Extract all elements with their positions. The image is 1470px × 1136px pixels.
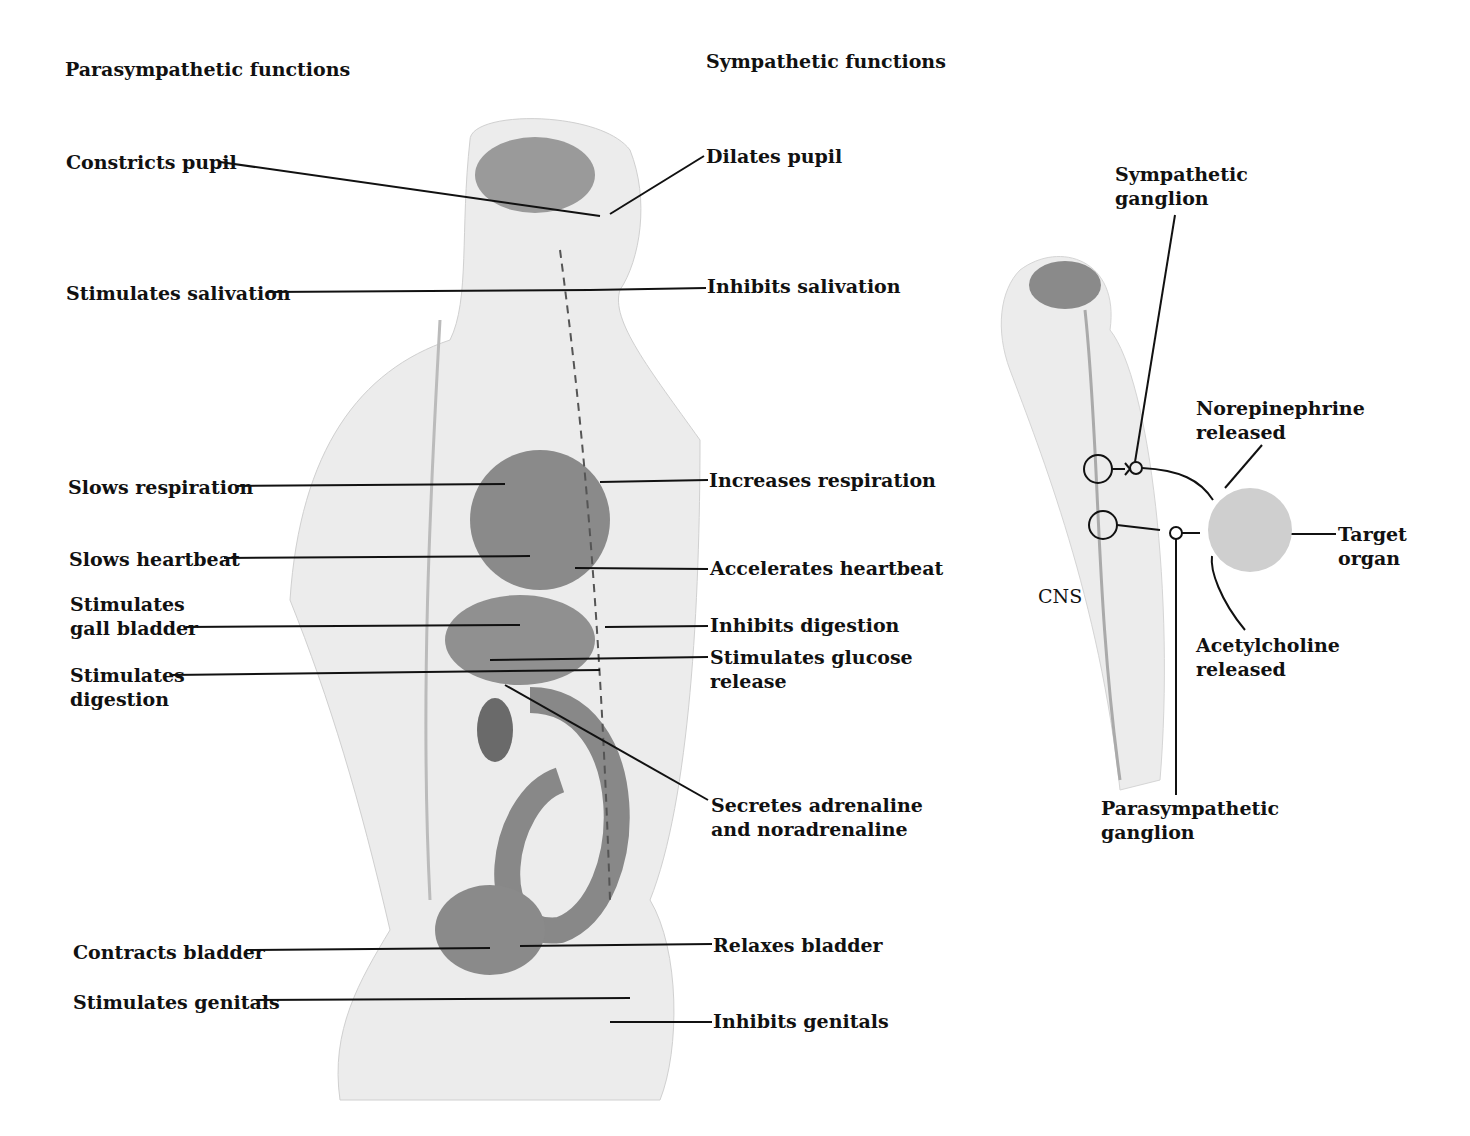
- inset-acetylcholine: Acetylcholine released: [1196, 633, 1340, 681]
- inset-sympathetic-ganglion: Sympathetic ganglion: [1115, 162, 1248, 210]
- label-constricts-pupil: Constricts pupil: [66, 150, 237, 174]
- label-slows-respiration: Slows respiration: [68, 475, 253, 499]
- inset-target-organ: Target organ: [1338, 522, 1407, 570]
- label-relaxes-bladder: Relaxes bladder: [713, 933, 883, 957]
- sympathetic-header: Sympathetic functions: [706, 50, 946, 72]
- label-stimulates-genitals: Stimulates genitals: [73, 990, 280, 1014]
- inset-norepinephrine: Norepinephrine released: [1196, 396, 1365, 444]
- label-contracts-bladder: Contracts bladder: [73, 940, 265, 964]
- label-slows-heartbeat: Slows heartbeat: [69, 547, 240, 571]
- label-stimulates-glucose-release: Stimulates glucose release: [710, 645, 913, 693]
- label-inhibits-digestion: Inhibits digestion: [710, 613, 899, 637]
- bladder: [435, 885, 545, 975]
- parasympathetic-header: Parasympathetic functions: [65, 58, 350, 80]
- inset-parasympathetic-ganglion: Parasympathetic ganglion: [1101, 796, 1279, 844]
- label-increases-respiration: Increases respiration: [709, 468, 936, 492]
- inset-silhouette: [1001, 257, 1164, 791]
- label-stimulates-salivation: Stimulates salivation: [66, 281, 291, 305]
- label-dilates-pupil: Dilates pupil: [706, 144, 842, 168]
- label-secretes-adrenaline: Secretes adrenaline and noradrenaline: [711, 793, 923, 841]
- kidney: [477, 698, 513, 762]
- label-stimulates-gall-bladder: Stimulates gall bladder: [70, 592, 198, 640]
- inset-cns: CNS: [1038, 584, 1082, 608]
- target-organ: [1208, 488, 1292, 572]
- label-accelerates-heartbeat: Accelerates heartbeat: [710, 556, 943, 580]
- label-inhibits-salivation: Inhibits salivation: [707, 274, 901, 298]
- label-inhibits-genitals: Inhibits genitals: [713, 1009, 889, 1033]
- label-stimulates-digestion: Stimulates digestion: [70, 663, 185, 711]
